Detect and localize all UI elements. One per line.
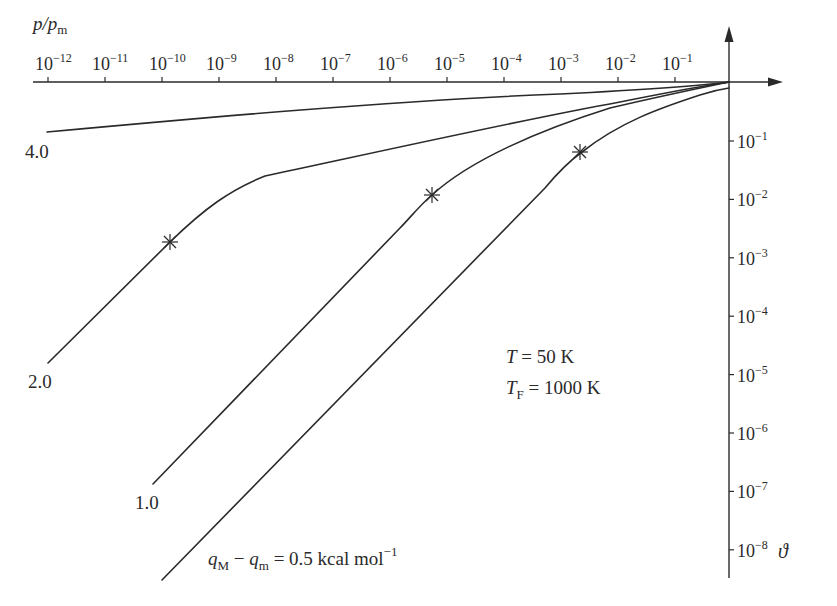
annotation-flame-temperature: TF = 1000 K [506, 377, 601, 402]
x-tick-label: 10−10 [149, 51, 186, 74]
x-tick-label: 10−7 [320, 51, 351, 74]
y-tick-label: 10−3 [737, 246, 768, 269]
y-tick-label: 10−1 [737, 129, 768, 152]
x-tick-label: 10−5 [434, 51, 465, 74]
x-tick-label: 10−2 [605, 51, 636, 74]
curve-label-1-0: 1.0 [135, 492, 159, 513]
curve-label-2-0: 2.0 [28, 371, 52, 392]
y-tick-label: 10−8 [737, 538, 768, 561]
x-tick-label: 10−8 [263, 51, 294, 74]
x-axis-label: p/pm [31, 13, 67, 37]
y-axis-label: ϑ [778, 540, 789, 562]
curve-0-5 [162, 88, 729, 580]
transition-markers [162, 144, 588, 250]
star-marker-icon [424, 187, 440, 203]
x-tick-label: 10−11 [92, 51, 128, 74]
adsorption-isotherm-chart: p/pm 10−1210−1110−1010−910−810−710−610−5… [0, 0, 837, 606]
y-tick-label: 10−7 [737, 479, 768, 502]
x-axis-arrow-icon [768, 78, 783, 87]
y-tick-label: 10−4 [737, 304, 768, 327]
curve-1-0 [153, 82, 729, 484]
y-axis-arrow-icon [725, 26, 734, 42]
star-marker-icon [162, 234, 178, 250]
y-axis: 10−110−210−310−410−510−610−710−8 [725, 26, 768, 578]
x-tick-label: 10−1 [662, 51, 693, 74]
y-tick-label: 10−6 [737, 421, 768, 444]
x-axis: 10−1210−1110−1010−910−810−710−610−510−41… [33, 51, 783, 87]
annotation-heat-difference: qM − qm = 0.5 kcal mol−1 [208, 544, 397, 573]
y-tick-label: 10−5 [737, 363, 768, 386]
x-tick-label: 10−4 [491, 51, 522, 74]
y-tick-label: 10−2 [737, 187, 768, 210]
x-tick-label: 10−12 [35, 51, 72, 74]
annotation-temperature: T = 50 K [506, 346, 575, 367]
x-tick-label: 10−6 [377, 51, 408, 74]
x-tick-label: 10−3 [548, 51, 579, 74]
x-tick-label: 10−9 [206, 51, 237, 74]
star-marker-icon [572, 144, 588, 160]
curve-label-4-0: 4.0 [25, 141, 49, 162]
